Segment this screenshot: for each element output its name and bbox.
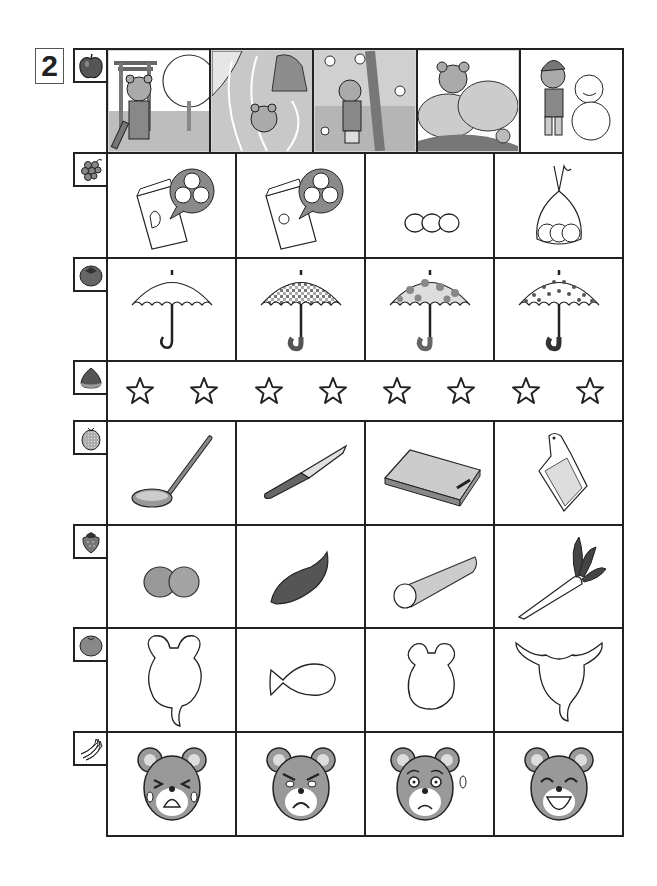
umbrella-polka-dot[interactable] [495,259,622,360]
row-marker-persimmon [73,257,108,292]
banana-icon [78,736,104,762]
star-icon[interactable] [575,376,605,406]
worried-bear-face [385,742,475,827]
row-marker-grapes [73,152,108,187]
row-marker-banana [73,731,108,766]
scene-river-swim[interactable] [211,50,314,152]
grater-icon [509,426,609,521]
star-icon[interactable] [254,376,284,406]
chestnut-icon [78,365,104,391]
potatoes[interactable] [108,526,237,627]
bear-shrine-illustration [109,51,209,151]
crying-bear-face [132,742,212,827]
bear-head-outline[interactable] [366,629,495,731]
strawberry-icon [78,529,104,555]
bear-crying[interactable] [108,733,237,835]
stars-container [108,362,622,420]
scene-cherry-blossom[interactable] [314,50,417,152]
ladle-icon [122,428,222,518]
daikon-radish[interactable] [495,526,622,627]
stars-row [106,360,624,422]
bear-snowman-illustration [521,51,621,151]
tied-bag-eggs-illustration [509,161,609,251]
knife-icon [251,428,351,518]
sweet-potato[interactable] [237,526,366,627]
star-icon[interactable] [125,376,155,406]
angry-bear-face [261,742,341,827]
grapes-icon [78,157,104,183]
burdock-root-icon [375,532,485,622]
umbrella-checked[interactable] [237,259,366,360]
vegetables-row [106,524,624,629]
cutting-board[interactable] [366,422,495,524]
plain-umbrella-icon [127,265,217,355]
fish-outline[interactable] [237,629,366,731]
kitchen-knife[interactable] [237,422,366,524]
row-marker-melon [73,420,108,455]
three-eggs-illustration [380,161,480,251]
umbrellas-row [106,257,624,362]
laughing-bear-face [519,742,599,827]
question-number: 2 [35,48,64,84]
scene-shrine-new-year[interactable] [108,50,211,152]
row-marker-strawberry [73,524,108,559]
mouse-head-bubble[interactable] [108,629,237,731]
bear-worried[interactable] [366,733,495,835]
scene-row [106,48,624,154]
star-icon[interactable] [318,376,348,406]
mouse-bubble-outline [122,633,222,728]
hen-bag-illustration [122,161,222,251]
star-icon[interactable] [382,376,412,406]
grater[interactable] [495,422,622,524]
flower-umbrella-icon [385,265,475,355]
fish-outline-icon [251,635,351,725]
bear-hydrangea-illustration [418,51,518,151]
bag-chick-eggs[interactable] [237,154,366,257]
ladle[interactable] [108,422,237,524]
bear-cherry-tree-illustration [315,51,415,151]
scene-hydrangea[interactable] [418,50,521,152]
kitchen-tools-row [106,420,624,526]
melon-icon [78,425,104,451]
persimmon-icon [78,262,104,288]
checked-umbrella-icon [256,265,346,355]
tangerine-icon [78,632,104,658]
daikon-icon [504,529,614,624]
bear-head-outline-icon [380,635,480,725]
sweet-potato-icon [251,532,351,622]
eggs-row [106,152,624,259]
cutting-board-icon [375,428,485,518]
star-icon[interactable] [446,376,476,406]
eggs-in-tied-bag[interactable] [495,154,622,257]
row-marker-tangerine [73,627,108,662]
apple-icon [78,52,104,80]
row-marker-chestnut [73,360,108,395]
polka-dot-umbrella-icon [514,265,604,355]
outlines-row [106,627,624,733]
deer-head-bubble[interactable] [495,629,622,731]
burdock-root[interactable] [366,526,495,627]
umbrella-plain[interactable] [108,259,237,360]
bear-laughing[interactable] [495,733,622,835]
star-icon[interactable] [189,376,219,406]
star-icon[interactable] [511,376,541,406]
chick-bag-illustration [251,161,351,251]
row-marker-apple [73,48,108,83]
bag-hen-eggs[interactable] [108,154,237,257]
three-eggs[interactable] [366,154,495,257]
umbrella-flowers[interactable] [366,259,495,360]
potatoes-icon [122,532,222,622]
emotions-row [106,731,624,837]
bear-swimming-illustration [212,51,312,151]
scene-snowman[interactable] [521,50,622,152]
deer-bubble-outline [504,633,614,728]
bear-angry[interactable] [237,733,366,835]
